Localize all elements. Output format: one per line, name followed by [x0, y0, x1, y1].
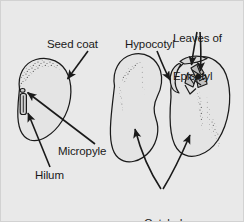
split-seed-cotyledon-view — [110, 54, 161, 162]
label-cotyledons: Cotyledons (seed leaves) — [144, 191, 212, 222]
label-hilum: Hilum — [35, 169, 64, 182]
micropyle-pore — [20, 89, 25, 93]
label-cotyledons-line1: Cotyledons — [144, 217, 212, 222]
label-hypocotyl: Hypocotyl — [125, 38, 175, 51]
label-leaves-of-epicotyl: Leaves of Epicotyl — [173, 6, 222, 108]
seed-anatomy-figure: Seed coat Hypocotyl Leaves of Epicotyl M… — [0, 0, 244, 222]
label-micropyle: Micropyle — [58, 145, 106, 158]
label-leaves-of-epicotyl-line1: Leaves of — [173, 32, 222, 45]
label-leaves-of-epicotyl-line2: Epicotyl — [173, 70, 222, 83]
pointer-seed-coat — [68, 51, 89, 79]
seed-outline-middle — [110, 54, 161, 162]
whole-seed-external-view — [18, 58, 71, 140]
label-seed-coat: Seed coat — [47, 38, 98, 51]
